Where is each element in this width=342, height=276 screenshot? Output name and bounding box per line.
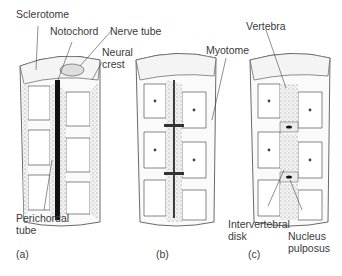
panel-c-drawing [250, 53, 330, 226]
label-nucleus-1: Nucleus [288, 230, 326, 242]
label-perichordal-1: Perichordal [16, 212, 69, 224]
panel-label-b: (b) [156, 248, 169, 260]
panel-a-drawing [20, 56, 100, 226]
label-neural-crest-1: Neural [102, 46, 133, 58]
label-perichordal-2: tube [16, 224, 36, 236]
panel-label-a: (a) [16, 248, 29, 260]
label-nerve-tube: Nerve tube [110, 25, 161, 37]
panel-label-c: (c) [248, 248, 260, 260]
label-sclerotome: Sclerotome [16, 8, 69, 20]
label-vertebra: Vertebra [246, 20, 286, 32]
label-myotome: Myotome [206, 44, 249, 56]
label-nucleus-2: pulposus [288, 242, 330, 254]
panel-b-drawing [136, 53, 216, 226]
label-intervertebral-1: Intervertebral [228, 218, 290, 230]
label-intervertebral-2: disk [228, 230, 247, 242]
label-neural-crest-2: crest [102, 58, 125, 70]
label-notochord: Notochord [50, 25, 98, 37]
